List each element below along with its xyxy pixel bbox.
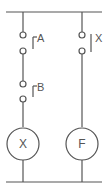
contact-x-label: X xyxy=(95,32,103,44)
contact-b-label: B xyxy=(37,81,44,93)
ladder-diagram: A B X X F xyxy=(0,0,110,187)
coil-x: X xyxy=(7,128,39,160)
contact-a: A xyxy=(20,32,45,54)
rung-right: X F xyxy=(66,12,103,182)
rung-left: A B X xyxy=(7,12,45,182)
coil-f-label: F xyxy=(78,137,85,151)
coil-f: F xyxy=(66,128,98,160)
contact-a-label: A xyxy=(37,32,45,44)
contact-x: X xyxy=(79,32,103,54)
contact-b: B xyxy=(20,81,44,102)
coil-x-label: X xyxy=(19,137,27,151)
